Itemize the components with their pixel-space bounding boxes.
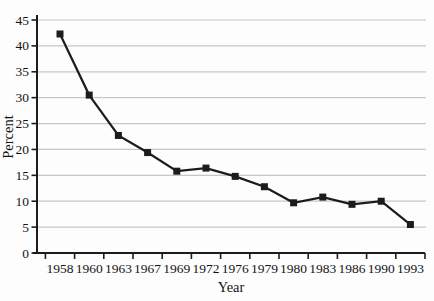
y-tick-label: 45 <box>16 13 30 28</box>
data-point-marker <box>144 149 151 156</box>
axes <box>33 15 425 254</box>
x-tick-label: 1983 <box>309 261 336 276</box>
y-axis-label: Percent <box>0 115 16 158</box>
x-tick-label: 1986 <box>339 261 366 276</box>
y-tick-label: 30 <box>16 90 30 105</box>
x-tick-label: 1958 <box>47 261 74 276</box>
data-point-marker <box>378 198 385 205</box>
line-chart-figure: 051015202530354045 195819601963196719691… <box>0 0 434 301</box>
data-point-marker <box>407 221 414 228</box>
y-tick-label: 0 <box>22 246 29 261</box>
y-axis-tick-labels: 051015202530354045 <box>16 13 30 261</box>
data-point-marker <box>349 201 356 208</box>
x-tick-label: 1993 <box>397 261 424 276</box>
x-tick-label: 1980 <box>280 261 307 276</box>
data-point-marker <box>115 132 122 139</box>
data-point-marker <box>290 199 297 206</box>
y-tick-label: 15 <box>16 168 30 183</box>
gridlines <box>37 20 426 227</box>
y-tick-label: 10 <box>16 194 30 209</box>
data-point-marker <box>319 194 326 201</box>
line-chart-canvas: 051015202530354045 195819601963196719691… <box>0 0 434 301</box>
x-tick-label: 1963 <box>105 261 132 276</box>
x-tick-label: 1976 <box>222 261 249 276</box>
data-point-marker <box>86 92 93 99</box>
data-point-marker <box>173 168 180 175</box>
x-tick-label: 1967 <box>134 261 161 276</box>
data-series <box>57 30 414 228</box>
y-tick-label: 25 <box>16 116 30 131</box>
x-tick-label: 1969 <box>163 261 190 276</box>
y-tick-label: 40 <box>16 38 30 53</box>
y-tick-label: 20 <box>16 142 30 157</box>
x-tick-label: 1960 <box>76 261 103 276</box>
x-tick-label: 1990 <box>368 261 395 276</box>
y-tick-label: 35 <box>16 64 30 79</box>
data-point-marker <box>57 30 64 37</box>
x-axis-label: Year <box>218 279 245 295</box>
x-axis-tick-labels: 1958196019631967196919721976197919801983… <box>47 261 425 276</box>
data-point-marker <box>232 173 239 180</box>
x-tick-label: 1972 <box>193 261 220 276</box>
y-tick-label: 5 <box>22 220 29 235</box>
data-point-marker <box>261 183 268 190</box>
data-line <box>60 34 410 225</box>
x-tick-label: 1979 <box>251 261 278 276</box>
data-point-marker <box>203 165 210 172</box>
